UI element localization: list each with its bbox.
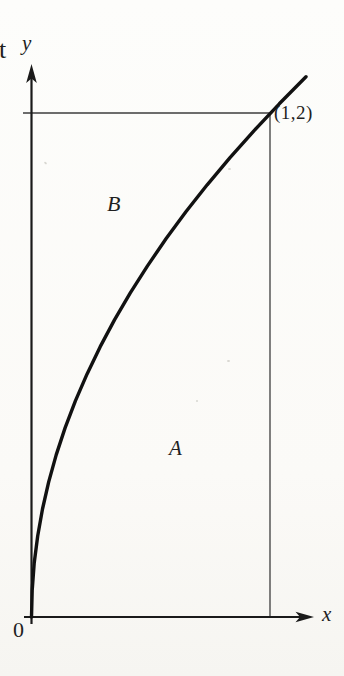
corner-point-label: (1,2) [274,103,313,122]
region-a-label: A [169,438,182,459]
scan-speckle [196,400,198,402]
region-b-label: B [107,193,120,215]
origin-label: 0 [13,619,24,641]
cropped-text-fragment: t [0,37,6,63]
scan-speckle [227,360,230,362]
y-axis-label: y [22,33,31,54]
scan-speckle [228,168,231,170]
curve-path [32,77,307,617]
figure-canvas: t y (1,2) B A 0 x [0,0,344,676]
x-axis-label: x [322,604,331,625]
